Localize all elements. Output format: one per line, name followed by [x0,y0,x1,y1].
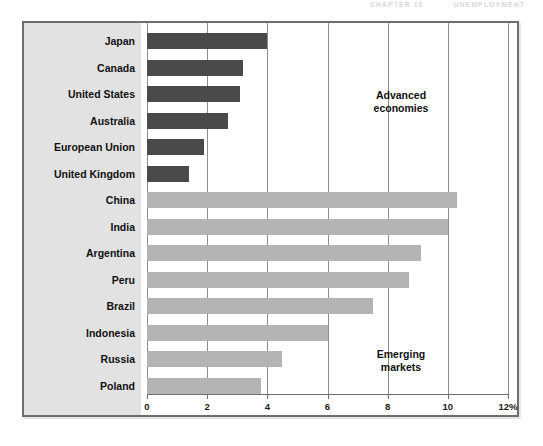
bar-row: China [141,187,517,214]
bar-row: European Union [141,134,517,161]
running-head-right: UNEMPLOYMENT [454,1,526,8]
bar-poland [147,378,261,394]
x-tick-label: 0 [144,401,149,412]
chart-figure-frame: 024681012% JapanCanadaUnited StatesAustr… [22,21,519,417]
category-label: Brazil [106,293,135,320]
annotation-emerging-markets: Emerging markets [353,348,449,374]
category-label: United States [68,81,135,108]
bar-russia [147,351,282,367]
x-tick-label: 12% [498,401,517,412]
x-tick-label: 10 [443,401,454,412]
bar-row: United States [141,81,517,108]
bar-united-states [147,86,240,102]
bar-row: Japan [141,28,517,55]
bar-canada [147,60,243,76]
bar-indonesia [147,325,328,341]
plot-area: 024681012% JapanCanadaUnited StatesAustr… [141,23,517,415]
bar-united-kingdom [147,166,189,182]
x-tick-label: 6 [325,401,330,412]
category-label: Argentina [86,240,135,267]
bar-brazil [147,298,373,314]
bar-row: United Kingdom [141,161,517,188]
bar-european-union [147,139,204,155]
category-label: Indonesia [86,320,135,347]
bar-row: Brazil [141,293,517,320]
bar-row: Peru [141,267,517,294]
category-label: Canada [97,55,135,82]
category-label: India [110,214,135,241]
category-label: Russia [101,346,135,373]
bar-row: Argentina [141,240,517,267]
category-label: China [106,187,135,214]
x-tick-label: 8 [385,401,390,412]
category-label: European Union [54,134,135,161]
category-label: Poland [100,373,135,400]
bar-row: Canada [141,55,517,82]
running-head: CHAPTER 16 UNEMPLOYMENT [0,1,543,13]
category-label: Japan [105,28,135,55]
bar-china [147,192,457,208]
bar-peru [147,272,409,288]
bar-row: Australia [141,108,517,135]
bar-row: India [141,214,517,241]
bar-japan [147,33,267,49]
running-head-left: CHAPTER 16 [370,1,424,8]
category-label: United Kingdom [54,161,135,188]
x-tick-label: 2 [205,401,210,412]
bar-australia [147,113,228,129]
bar-row: Poland [141,373,517,400]
category-label: Australia [90,108,135,135]
annotation-advanced-economies: Advanced economies [353,89,449,115]
bar-row: Russia [141,346,517,373]
x-tick-label: 4 [265,401,270,412]
bar-row: Indonesia [141,320,517,347]
bar-argentina [147,245,421,261]
bar-india [147,219,448,235]
category-label: Peru [112,267,135,294]
